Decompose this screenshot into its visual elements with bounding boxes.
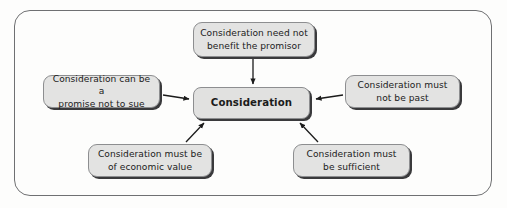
arrow-left-to-center xyxy=(163,95,189,99)
node-label: Consideration must be sufficient xyxy=(307,148,397,172)
arrow-bottom-left-to-center xyxy=(186,123,204,142)
node-label: Consideration must be of economic value xyxy=(98,148,202,172)
diagram-canvas: Consideration need not benefit the promi… xyxy=(0,0,507,208)
arrow-bottom-right-to-center xyxy=(300,123,318,142)
node-must-be-of-economic-value[interactable]: Consideration must be of economic value xyxy=(88,144,212,177)
node-must-not-be-past[interactable]: Consideration must not be past xyxy=(345,75,460,108)
node-label: Consideration need not benefit the promi… xyxy=(200,27,308,51)
node-promise-not-to-sue[interactable]: Consideration can be a promise not to su… xyxy=(43,75,160,108)
arrow-right-to-center xyxy=(316,95,343,99)
node-label: Consideration can be a promise not to su… xyxy=(49,73,154,110)
node-must-be-sufficient[interactable]: Consideration must be sufficient xyxy=(293,144,410,177)
node-label: Consideration must not be past xyxy=(358,79,448,103)
node-consideration-center[interactable]: Consideration xyxy=(193,87,310,119)
node-need-not-benefit-promisor[interactable]: Consideration need not benefit the promi… xyxy=(193,22,315,57)
node-label: Consideration xyxy=(211,97,292,109)
